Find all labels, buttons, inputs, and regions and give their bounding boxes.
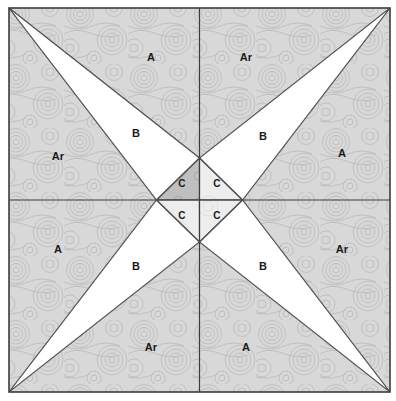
block-svg-canvas [0,0,396,401]
quilt-block-diagram: A Ar Ar B B A C C C C A Ar B B Ar A [0,0,396,401]
